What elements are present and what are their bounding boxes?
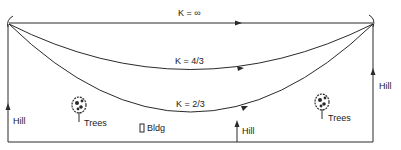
hill-center-arrow-icon — [235, 120, 240, 127]
label-bldg: Bldg — [147, 124, 165, 133]
label-hill-center: Hill — [242, 127, 255, 136]
arrow-k-2-3-icon — [241, 106, 248, 111]
label-k-4-3: K = 4/3 — [175, 57, 204, 66]
tree-right-icon — [315, 94, 329, 119]
label-hill-right: Hill — [379, 82, 392, 91]
radio-path-diagram — [0, 0, 401, 150]
label-k-2-3: K = 2/3 — [176, 100, 205, 109]
label-k-infinity: K = ∞ — [178, 9, 201, 18]
label-hill-left: Hill — [13, 117, 26, 126]
label-trees-right: Trees — [328, 114, 351, 123]
arrow-k-4-3-icon — [237, 66, 244, 71]
hill-left-arrow-icon — [6, 103, 11, 110]
building-icon — [140, 124, 144, 132]
hill-right-arrow-icon — [371, 68, 376, 75]
arrow-k-infinity-icon — [235, 21, 242, 26]
label-trees-left: Trees — [84, 119, 107, 128]
